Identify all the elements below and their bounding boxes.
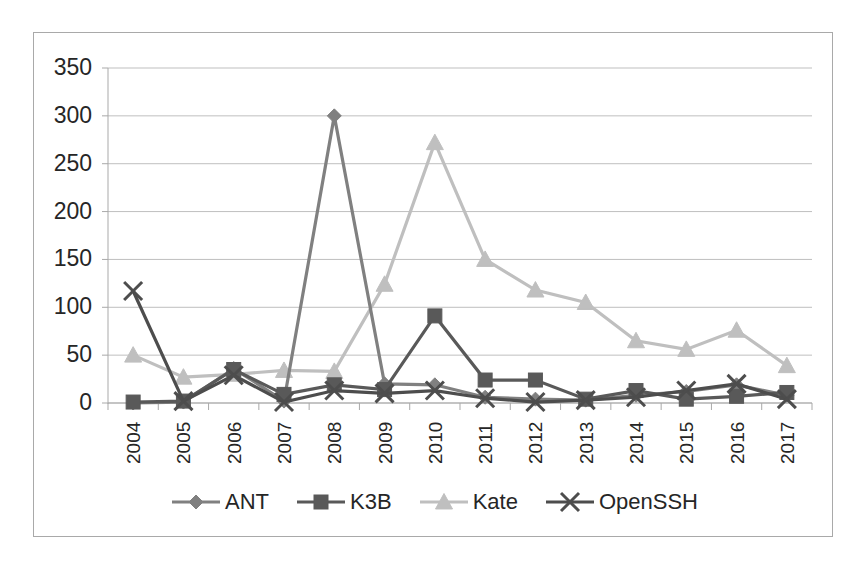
legend-label: ANT xyxy=(225,491,269,513)
x-tick-label: 2009 xyxy=(376,422,395,464)
legend-item-k3b[interactable]: K3B xyxy=(295,489,392,515)
x-tick-label: 2014 xyxy=(627,422,646,464)
x-tick-label: 2012 xyxy=(526,422,545,464)
legend-label: OpenSSH xyxy=(599,491,698,513)
x-tick-label: 2005 xyxy=(174,422,193,464)
x-marker-icon xyxy=(544,489,596,515)
triangle-marker-icon xyxy=(418,489,470,515)
y-tick-label: 50 xyxy=(0,343,92,366)
square-marker-icon xyxy=(295,489,347,515)
x-tick-label: 2008 xyxy=(325,422,344,464)
chart-legend: ANTK3BKateOpenSSH xyxy=(0,489,868,515)
x-tick-label: 2017 xyxy=(778,422,797,464)
x-tick-label: 2004 xyxy=(124,422,143,464)
x-tick-label: 2013 xyxy=(577,422,596,464)
y-tick-label: 300 xyxy=(0,104,92,127)
y-tick-label: 100 xyxy=(0,295,92,318)
y-tick-label: 0 xyxy=(0,391,92,414)
y-tick-label: 200 xyxy=(0,200,92,223)
axes xyxy=(102,68,812,410)
legend-item-openssh[interactable]: OpenSSH xyxy=(544,489,698,515)
gridlines xyxy=(108,68,812,403)
y-tick-label: 250 xyxy=(0,152,92,175)
x-tick-label: 2007 xyxy=(275,422,294,464)
diamond-marker-icon xyxy=(170,489,222,515)
y-tick-label: 350 xyxy=(0,56,92,79)
x-tick-label: 2011 xyxy=(476,423,495,464)
y-tick-label: 150 xyxy=(0,247,92,270)
x-tick-label: 2016 xyxy=(728,422,747,464)
x-tick-label: 2015 xyxy=(677,422,696,464)
legend-item-kate[interactable]: Kate xyxy=(418,489,518,515)
chart-container: 050100150200250300350 200420052006200720… xyxy=(0,0,868,569)
x-tick-label: 2010 xyxy=(426,422,445,464)
legend-label: Kate xyxy=(473,491,518,513)
x-tick-label: 2006 xyxy=(225,422,244,464)
legend-item-ant[interactable]: ANT xyxy=(170,489,269,515)
line-chart-plot xyxy=(0,0,868,569)
legend-label: K3B xyxy=(350,491,392,513)
